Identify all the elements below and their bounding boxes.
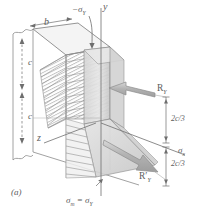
label-lever-arm-upper: 2c/3: [171, 115, 185, 123]
label-depth-c-upper: c: [28, 58, 32, 67]
label-sigma-x-axis: σx: [178, 146, 185, 157]
dimension-c-lower: [20, 92, 25, 144]
stress-distribution-figure: [0, 0, 200, 212]
label-minus-sigma-yield: −σY: [72, 5, 86, 16]
label-depth-c-lower: c: [28, 112, 32, 121]
label-z-axis: z: [37, 133, 41, 143]
label-resultant-lower: R′Y: [139, 172, 151, 184]
label-lever-arm-lower: 2c/3: [171, 160, 185, 168]
dimension-c-upper: [20, 38, 25, 90]
label-resultant-upper: RY: [157, 84, 167, 96]
dimension-2c3-upper: [155, 95, 170, 143]
dimension-2c3-lower: [155, 147, 170, 186]
figure-caption: (a): [11, 188, 22, 197]
label-sigma-m-equals-sigma-y: σm = σY: [66, 196, 93, 207]
label-width-b: b: [44, 17, 49, 27]
label-y-axis: y: [103, 2, 107, 12]
